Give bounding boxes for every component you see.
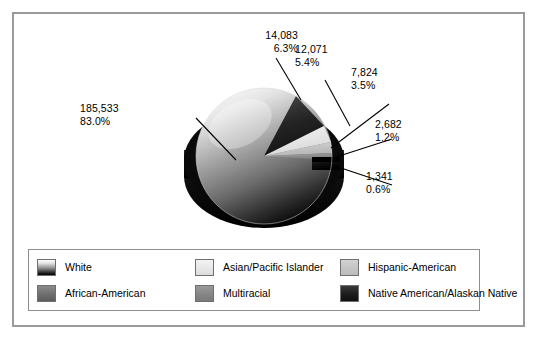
legend-item-multiracial: Multiracial: [195, 285, 340, 302]
data-label-african-american-percent: 0.6%: [366, 183, 393, 196]
legend-label-asian-pacific: Asian/Pacific Islander: [223, 261, 323, 273]
chart-figure: 14,083 6.3% 12,071 5.4% 7,824 3.5% 2,682…: [0, 0, 539, 341]
legend-label-multiracial: Multiracial: [223, 287, 270, 299]
chart-legend: White Asian/Pacific Islander Hispanic-Am…: [28, 249, 480, 311]
pie-slice-african-american: [312, 157, 340, 170]
legend-item-hispanic-american: Hispanic-American: [340, 259, 517, 276]
data-label-native-american-value: 14,083: [198, 29, 298, 42]
legend-swatch-native-american-icon: [340, 285, 359, 302]
legend-item-asian-pacific: Asian/Pacific Islander: [195, 259, 340, 276]
legend-item-native-american: Native American/Alaskan Native: [340, 285, 517, 302]
data-label-hispanic-american-percent: 3.5%: [351, 79, 378, 92]
legend-swatch-african-american-icon: [37, 285, 56, 302]
data-label-asian-pacific: 12,071 5.4%: [295, 43, 328, 68]
data-label-african-american-value: 1,341: [366, 170, 393, 183]
data-label-native-american: 14,083 6.3%: [198, 29, 298, 54]
legend-label-white: White: [65, 261, 92, 273]
data-label-hispanic-american-value: 7,824: [351, 66, 378, 79]
legend-swatch-white-icon: [37, 259, 56, 276]
data-label-white: 185,533 83.0%: [80, 102, 119, 127]
legend-swatch-hispanic-american-icon: [340, 259, 359, 276]
legend-label-hispanic-american: Hispanic-American: [368, 261, 456, 273]
leader-line-asian-pacific: [325, 80, 350, 126]
data-label-multiracial-value: 2,682: [375, 118, 402, 131]
data-label-african-american: 1,341 0.6%: [366, 170, 393, 195]
data-label-white-value: 185,533: [80, 102, 119, 115]
data-label-white-percent: 83.0%: [80, 115, 119, 128]
legend-swatch-multiracial-icon: [195, 285, 214, 302]
data-label-multiracial-percent: 1.2%: [375, 131, 402, 144]
legend-label-african-american: African-American: [65, 287, 146, 299]
data-label-asian-pacific-percent: 5.4%: [295, 56, 328, 69]
data-label-native-american-percent: 6.3%: [198, 42, 298, 55]
legend-label-native-american: Native American/Alaskan Native: [368, 287, 517, 299]
data-label-multiracial: 2,682 1.2%: [375, 118, 402, 143]
data-label-hispanic-american: 7,824 3.5%: [351, 66, 378, 91]
data-label-asian-pacific-value: 12,071: [295, 43, 328, 56]
legend-item-african-american: African-American: [37, 285, 195, 302]
legend-item-white: White: [37, 259, 195, 276]
legend-swatch-asian-pacific-icon: [195, 259, 214, 276]
